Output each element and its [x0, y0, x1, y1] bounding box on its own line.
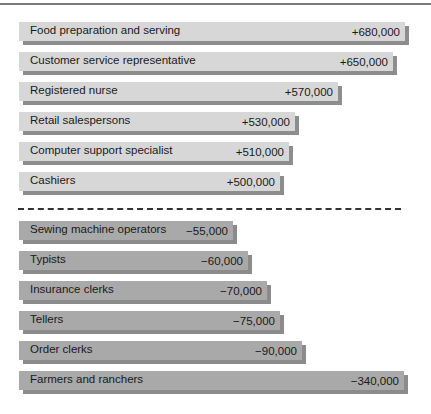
bar-value: +500,000	[227, 176, 275, 188]
bar-value: +650,000	[340, 56, 388, 68]
bar-retail-salespersons: Retail salespersons +530,000	[19, 112, 295, 131]
bar-value: +530,000	[242, 116, 290, 128]
bar-label: Computer support specialist	[30, 144, 173, 156]
bar-label: Farmers and ranchers	[30, 373, 143, 385]
bar-farmers-and-ranchers: Farmers and ranchers −340,000	[19, 371, 404, 390]
bar-label: Customer service representative	[30, 54, 196, 66]
bar-value: −340,000	[351, 375, 399, 387]
bar-food-preparation: Food preparation and serving +680,000	[19, 22, 405, 41]
bar-label: Food preparation and serving	[30, 24, 180, 36]
bar-label: Order clerks	[30, 343, 93, 355]
bar-value: −55,000	[186, 225, 228, 237]
bar-customer-service: Customer service representative +650,000	[19, 52, 393, 71]
bar-value: +680,000	[352, 26, 400, 38]
bar-insurance-clerks: Insurance clerks −70,000	[19, 281, 267, 300]
bar-sewing-machine-operators: Sewing machine operators −55,000	[19, 221, 233, 240]
bar-tellers: Tellers −75,000	[19, 311, 280, 330]
bar-value: −90,000	[255, 345, 297, 357]
bar-label: Sewing machine operators	[30, 223, 166, 235]
bar-value: −75,000	[233, 315, 275, 327]
bar-value: +570,000	[285, 86, 333, 98]
top-rule	[0, 3, 431, 5]
bar-label: Cashiers	[30, 174, 75, 186]
bar-computer-support: Computer support specialist +510,000	[19, 142, 289, 161]
bar-order-clerks: Order clerks −90,000	[19, 341, 302, 360]
bar-label: Registered nurse	[30, 84, 118, 96]
bar-label: Typists	[30, 253, 66, 265]
bar-label: Tellers	[30, 313, 63, 325]
bar-registered-nurse: Registered nurse +570,000	[19, 82, 338, 101]
zero-divider-dashed-line	[18, 208, 401, 210]
bar-cashiers: Cashiers +500,000	[19, 172, 280, 191]
bar-label: Insurance clerks	[30, 283, 114, 295]
bar-value: +510,000	[236, 146, 284, 158]
bar-label: Retail salespersons	[30, 114, 130, 126]
bar-value: −60,000	[201, 255, 243, 267]
bar-value: −70,000	[220, 285, 262, 297]
bar-typists: Typists −60,000	[19, 251, 248, 270]
